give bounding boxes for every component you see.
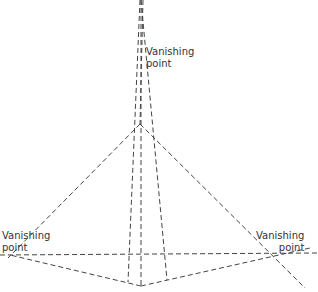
left-vanishing-point-label: Vanishing point <box>2 230 50 254</box>
vertical-line-left <box>128 0 140 282</box>
perspective-diagram: Vanishing point Vanishing point Vanishin… <box>0 0 318 292</box>
vertical-line-right <box>141 0 167 280</box>
top-vanishing-point-label: Vanishing point <box>146 46 194 70</box>
right-vanishing-point-label: Vanishing point <box>256 230 304 254</box>
apex-to-right-line <box>140 124 305 288</box>
bottom-to-left-line <box>10 255 141 286</box>
